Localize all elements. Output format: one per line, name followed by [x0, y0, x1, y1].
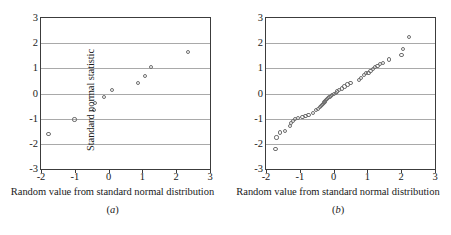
panel-b: Standard normal statistic -3-2-10123-2-1…	[225, 0, 451, 235]
figure-container: Standard normal statistic -3-2-10123-2-1…	[0, 0, 451, 235]
y-gridline	[41, 119, 210, 120]
x-tick-label: 2	[174, 172, 179, 182]
data-point-marker	[348, 81, 352, 85]
x-tick-label: 3	[207, 172, 212, 182]
data-point-marker	[102, 95, 106, 99]
x-tick-label: -2	[262, 172, 271, 182]
data-point-marker	[186, 50, 190, 54]
y-tick-label: 0	[33, 89, 38, 99]
data-point-marker	[387, 57, 391, 61]
data-point-marker	[72, 117, 76, 121]
data-point-marker	[381, 61, 385, 65]
y-tick-label: 3	[258, 13, 263, 23]
y-gridline	[266, 68, 435, 69]
data-point-marker	[278, 130, 282, 134]
caption-close-paren-a: )	[115, 204, 119, 215]
data-point-marker	[46, 132, 50, 136]
x-tick-label: -1	[295, 172, 304, 182]
y-gridline	[266, 94, 435, 95]
x-tick-label: -2	[37, 172, 46, 182]
y-tick-label: 0	[258, 89, 263, 99]
x-tick-label: 2	[399, 172, 404, 182]
y-tick-label: 3	[33, 13, 38, 23]
y-tick-label: 2	[258, 38, 263, 48]
panel-caption-b: (b)	[225, 204, 451, 216]
y-gridline	[41, 94, 210, 95]
x-axis-title-a: Random value from standard normal distri…	[0, 186, 225, 198]
data-point-marker	[136, 81, 140, 85]
y-axis-title-b: Standard normal statistic	[84, 25, 98, 175]
y-gridline	[41, 43, 210, 44]
plot-area-b: -3-2-10123-2-10123	[265, 17, 436, 170]
panel-caption-a: (a)	[0, 204, 225, 216]
x-tick-label: 0	[331, 172, 336, 182]
x-axis-title-b: Random value from standard normal distri…	[225, 186, 451, 198]
x-tick-label: 3	[432, 172, 437, 182]
x-tick-label: 1	[365, 172, 370, 182]
y-tick-label: 1	[33, 63, 38, 73]
y-tick-label: 1	[258, 63, 263, 73]
y-tick-label: -2	[29, 139, 38, 149]
y-tick-label: -1	[29, 114, 38, 124]
y-tick-label: -2	[254, 139, 263, 149]
data-point-marker	[274, 135, 278, 139]
y-gridline	[266, 43, 435, 44]
y-gridline	[41, 144, 210, 145]
y-gridline	[266, 144, 435, 145]
x-tick-label: 0	[106, 172, 111, 182]
y-gridline	[41, 68, 210, 69]
plot-area-a: -3-2-10123-2-10123	[40, 17, 211, 170]
y-tick-label: 2	[33, 38, 38, 48]
caption-close-paren-b: )	[341, 204, 345, 215]
data-point-marker	[311, 111, 315, 115]
x-tick-label: 1	[140, 172, 145, 182]
data-point-marker	[143, 74, 147, 78]
data-point-marker	[401, 47, 405, 51]
data-point-marker	[110, 88, 114, 92]
data-point-marker	[399, 53, 403, 57]
data-point-marker	[273, 147, 277, 151]
x-tick-label: -1	[70, 172, 79, 182]
panel-a: Standard normal statistic -3-2-10123-2-1…	[0, 0, 225, 235]
data-point-marker	[283, 129, 287, 133]
y-tick-label: -1	[254, 114, 263, 124]
data-point-marker	[407, 35, 411, 39]
